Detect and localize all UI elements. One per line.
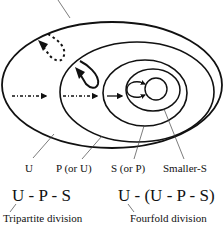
loop-arrow-bottom	[127, 90, 145, 97]
caption-tripartite: Tripartite division	[3, 212, 82, 224]
label-u: U	[25, 162, 33, 174]
dashed-hook-arrow	[44, 34, 64, 61]
label-p: P (or U)	[56, 162, 92, 174]
label-s: S (or P)	[111, 162, 145, 174]
top-leader-line	[58, 0, 70, 18]
ellipse-p	[60, 42, 214, 142]
caption-fourfold: Fourfold division	[130, 212, 207, 224]
dashed-hook-arrowhead	[38, 40, 48, 51]
inner-circle	[145, 78, 167, 100]
formula-tripartite: U - P - S	[12, 187, 71, 205]
solid-hook-arrowhead	[75, 67, 85, 79]
leader-u	[33, 134, 54, 158]
nested-ellipses-diagram	[0, 0, 224, 243]
label-smaller-s: Smaller-S	[163, 162, 207, 174]
leader-fourfold	[128, 204, 134, 212]
leader-tripartite	[10, 204, 16, 212]
loop-arrow-top	[127, 82, 145, 90]
ellipse-smaller-s	[126, 69, 180, 111]
formula-fourfold: U - (U - P - S)	[118, 187, 215, 205]
